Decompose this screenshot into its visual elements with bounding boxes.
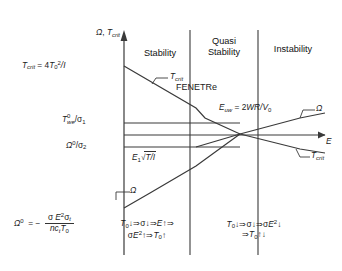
y-axis-label: Ω, Tcrit	[96, 28, 120, 39]
formula-e1-sqrt: E1√T/I	[132, 153, 156, 164]
y-tick-t-crit-value: Tcrit = 4T02/I	[22, 60, 65, 71]
note-stability-mechanism: T0↓⇒σ↓⇒E↑⇒ σE2↑⇒T0↑	[104, 219, 190, 241]
y-tick-t-we-sigma1: T 0we /σ1	[62, 114, 85, 126]
zone-title-stability: Stability	[133, 48, 187, 59]
formula-e-uw: Euw = 2WR/V0	[219, 103, 271, 114]
omega-curve-right	[240, 113, 325, 134]
note-instability-mechanism: T0↓⇒σ↓⇒σE2↓ ⇒T0↑↓	[206, 219, 302, 241]
y-axis-arrowhead	[121, 30, 128, 41]
omega-curve	[124, 134, 240, 208]
x-axis-label: E	[326, 137, 332, 147]
wedge-upper	[196, 123, 240, 134]
zone-title-quasi-stability: Quasi Stability	[194, 36, 254, 58]
formula-omega-zero: Ω0 = − σ E2σt nctT0	[14, 212, 74, 235]
curve-label-omega-lower-left: Ω	[130, 186, 136, 196]
curve-label-t-crit-upper: Tcrit	[170, 72, 183, 83]
curve-label-t-crit-right: Tcrit	[311, 151, 324, 162]
wedge-lower	[196, 134, 240, 147]
y-tick-omega0-sigma2: Ω0/σ2	[66, 140, 86, 151]
fenetre-label: FENETRe	[176, 82, 217, 93]
zone-title-instability: Instability	[262, 44, 324, 55]
omega-leader-left	[116, 192, 130, 200]
curve-label-omega-right: Ω	[316, 104, 322, 114]
figure-root: Ω, Tcrit E Stability Quasi Stability Ins…	[0, 0, 342, 271]
